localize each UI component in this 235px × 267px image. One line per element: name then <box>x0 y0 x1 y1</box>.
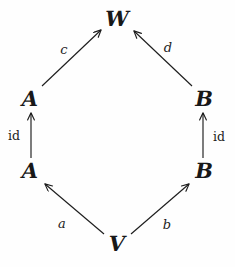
node-label-a-bottom: A <box>22 160 38 181</box>
edge-label-a: a <box>58 217 66 230</box>
arrow-c <box>42 30 101 86</box>
node-label-w: W <box>105 8 129 29</box>
edge-label-id-right: id <box>213 131 225 144</box>
commutative-diagram: W A B A B V c d id id a b <box>0 0 235 267</box>
arrow-b <box>131 184 189 234</box>
edge-label-d: d <box>164 41 172 54</box>
node-label-a-top: A <box>22 88 38 109</box>
edge-label-id-left: id <box>8 130 20 143</box>
diagram-arrows-layer <box>0 0 235 267</box>
node-label-b-top: B <box>195 88 213 109</box>
edge-label-c: c <box>60 43 67 56</box>
node-label-v: V <box>109 233 125 254</box>
node-label-b-bottom: B <box>195 160 213 181</box>
arrow-a <box>45 184 104 234</box>
edge-label-b: b <box>163 218 171 231</box>
